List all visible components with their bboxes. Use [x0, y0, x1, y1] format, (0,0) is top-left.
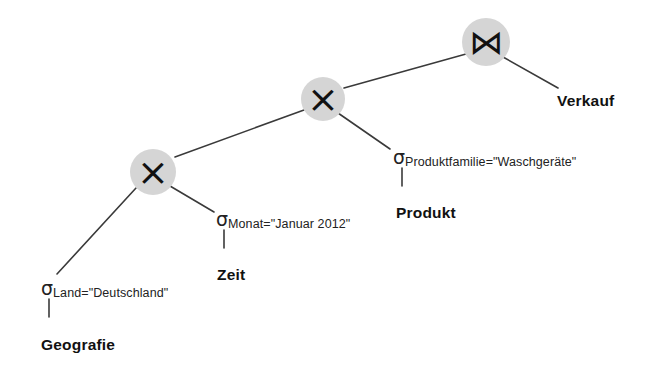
- selection-predicate-zeit: Monat="Januar 2012": [228, 217, 350, 231]
- sigma-icon: σ: [41, 277, 53, 299]
- selection-predicate-produkt: Produktfamilie="Waschgeräte": [405, 155, 576, 169]
- edge-join-to-verkauf: [503, 57, 558, 88]
- sigma-icon: σ: [216, 208, 228, 230]
- relation-label-produkt: Produkt: [396, 204, 456, 222]
- selection-predicate-geografie: Land="Deutschland": [53, 286, 168, 300]
- edge-cross-left-to-sel-geografie: [57, 188, 136, 274]
- selection-label-produkt: σProduktfamilie="Waschgeräte": [393, 146, 576, 168]
- operator-node-cross-product-left[interactable]: ×: [130, 149, 176, 195]
- selection-label-zeit: σMonat="Januar 2012": [216, 208, 350, 230]
- edge-cross-mid-to-sel-produkt: [338, 113, 390, 149]
- relation-label-zeit: Zeit: [217, 266, 245, 284]
- tree-edges: [0, 0, 661, 377]
- edge-cross-left-to-sel-zeit: [170, 186, 214, 212]
- operator-node-cross-product-middle[interactable]: ×: [301, 77, 345, 121]
- selection-label-geografie: σLand="Deutschland": [41, 277, 168, 299]
- relation-label-geografie: Geografie: [41, 336, 115, 354]
- relation-label-verkauf: Verkauf: [557, 92, 614, 110]
- edge-cross-mid-to-cross-left: [175, 110, 304, 157]
- query-tree-diagram: ⋈ × × σProduktfamilie="Waschgeräte" σMon…: [0, 0, 661, 377]
- sigma-icon: σ: [393, 146, 405, 168]
- operator-node-join[interactable]: ⋈: [462, 18, 510, 66]
- edge-join-to-cross-mid: [344, 54, 466, 88]
